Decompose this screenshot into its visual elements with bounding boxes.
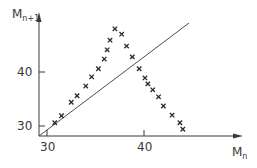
x-tick-label-30: 30 <box>40 141 55 153</box>
x-marker-icon <box>156 95 160 99</box>
x-axis-label-sub: n <box>242 152 247 161</box>
x-marker-icon <box>108 38 112 42</box>
x-marker-icon <box>84 84 88 88</box>
x-marker-icon <box>59 114 63 118</box>
x-marker-icon <box>146 82 150 86</box>
x-marker-icon <box>130 55 134 59</box>
data-points <box>53 27 185 132</box>
x-marker-icon <box>137 67 141 71</box>
x-marker-icon <box>69 100 73 104</box>
x-axis-label: Mn <box>232 146 247 161</box>
x-marker-icon <box>181 127 185 131</box>
y-axis-label-sub: n+1 <box>22 14 39 23</box>
x-marker-icon <box>89 75 93 79</box>
y-axis-label-main: M <box>12 7 22 21</box>
x-axis-arrow-icon <box>233 134 243 139</box>
x-marker-icon <box>170 113 174 117</box>
x-axis-label-main: M <box>232 145 242 159</box>
y-axis-label: Mn+1 <box>12 8 39 23</box>
y-tick-label-40: 40 <box>17 66 32 78</box>
x-marker-icon <box>151 88 155 92</box>
x-marker-icon <box>113 27 117 31</box>
x-marker-icon <box>105 48 109 52</box>
x-marker-icon <box>75 94 79 98</box>
x-marker-icon <box>124 44 128 48</box>
tick-marks <box>39 72 144 136</box>
x-marker-icon <box>119 32 123 36</box>
scatter-chart <box>0 0 257 168</box>
x-marker-icon <box>102 57 106 61</box>
x-marker-icon <box>178 121 182 125</box>
x-tick-label-40: 40 <box>137 141 152 153</box>
x-marker-icon <box>96 67 100 71</box>
axes <box>37 12 244 139</box>
x-marker-icon <box>161 104 165 108</box>
y-tick-label-30: 30 <box>17 120 32 132</box>
x-marker-icon <box>143 76 147 80</box>
identity-line <box>39 23 189 136</box>
